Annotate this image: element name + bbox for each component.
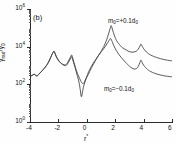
x-axis-line [30, 122, 173, 123]
curve-group [30, 9, 172, 122]
curve-plus-label-sub1: 0 [113, 20, 116, 25]
y-tick-label: 106 [15, 5, 25, 12]
curve-plus-label-rest: =+0.1d [116, 17, 136, 24]
y-axis-label-sub2: 0 [1, 43, 6, 46]
x-axis-label-sup: * [86, 133, 88, 139]
y-tick-label: 104 [15, 43, 25, 50]
x-axis-label: r* [84, 135, 88, 142]
y-tick-label: 100 [15, 118, 25, 125]
y-tick-exponent: 0 [22, 116, 25, 121]
y-tick-label: 102 [15, 80, 25, 87]
x-tick-label: 6 [168, 125, 172, 132]
x-tick-label: -2 [54, 125, 60, 132]
y-axis-label-sub1: rad [1, 52, 6, 59]
curve-plus-label-sub2: 0 [135, 20, 138, 25]
y-tick-exponent: 6 [22, 3, 25, 8]
curve-minus-label-sub2: 0 [131, 88, 134, 93]
figure-panel-b: 106104102100 -4-20246 γrad/γ0 r* (b) m0=… [0, 0, 177, 144]
curve-plus-label: m0=+0.1d0 [108, 18, 138, 24]
y-axis-label: γrad/γ0 [0, 43, 4, 62]
y-tick-exponent: 2 [22, 78, 25, 83]
y-axis-label-mid: /γ [0, 46, 4, 51]
y-tick-exponent: 4 [22, 41, 25, 46]
x-tick-mark [172, 119, 173, 123]
x-tick-label: 4 [140, 125, 144, 132]
curve-minus-label-sub1: 0 [109, 88, 112, 93]
x-tick-label: 2 [111, 125, 115, 132]
curve-minus-label: m0=−0.1d0 [104, 86, 134, 92]
curve-minus-label-rest: =−0.1d [112, 85, 132, 92]
curve-m0-minus [30, 38, 172, 96]
x-tick-label: 0 [83, 125, 87, 132]
plot-area [30, 9, 172, 122]
x-tick-label: -4 [26, 125, 32, 132]
y-axis-label-text: γ [0, 59, 4, 63]
curve-m0-plus [30, 26, 172, 84]
